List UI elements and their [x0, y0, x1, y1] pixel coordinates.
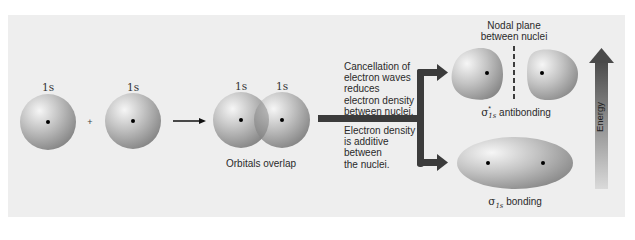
antibonding-text: antibonding — [499, 107, 551, 118]
description-line: the nuclei. — [344, 159, 415, 170]
description-line: is additive — [344, 136, 415, 147]
antibonding-label: σ*1s antibonding — [481, 107, 551, 118]
overlapping-orbitals — [213, 92, 310, 148]
nodal-plane-line-text: Nodal plane — [481, 20, 548, 31]
nucleus-dot — [485, 71, 489, 75]
nucleus-dot — [486, 161, 490, 165]
nucleus-dot — [541, 161, 545, 165]
overlap-label-1s-right: 1s — [276, 81, 288, 92]
overlap-label-1s-left: 1s — [235, 81, 247, 92]
description-line: between — [344, 147, 415, 158]
subscript: 1s — [495, 202, 503, 210]
orbital-label-1s-left: 1s — [42, 82, 54, 93]
plus-sign: + — [87, 117, 92, 127]
energy-label: Energy — [594, 102, 605, 132]
orbitals-overlap-caption: Orbitals overlap — [226, 158, 296, 169]
subscript: 1s — [488, 111, 496, 122]
sigma-symbol: σ — [481, 106, 488, 118]
nodal-plane-label: Nodal plane between nuclei — [481, 20, 548, 42]
nucleus-dot — [280, 118, 284, 122]
antibonding-description: Cancellation of electron waves reduces e… — [344, 61, 414, 117]
bonding-label: σ1s bonding — [488, 196, 542, 212]
nucleus-dot — [239, 118, 243, 122]
orbital-1s-right — [105, 93, 161, 149]
orbital-label-1s-right: 1s — [127, 82, 139, 93]
description-line: between nuclei. — [344, 106, 414, 117]
bonding-text: bonding — [506, 196, 542, 207]
description-line: electron density — [344, 95, 414, 106]
nucleus-dot — [540, 71, 544, 75]
bonding-description: Electron density is additive between the… — [344, 125, 415, 170]
description-line: Electron density — [344, 125, 415, 136]
nucleus-dot — [131, 119, 135, 123]
reaction-arrow — [173, 118, 206, 124]
orbital-1s-left — [20, 94, 76, 150]
nodal-plane-line-text: between nuclei — [481, 31, 548, 42]
description-line: reduces — [344, 83, 414, 94]
nucleus-dot — [46, 120, 50, 124]
bonding-orbital — [457, 137, 573, 189]
description-line: electron waves — [344, 72, 414, 83]
description-line: Cancellation of — [344, 61, 414, 72]
